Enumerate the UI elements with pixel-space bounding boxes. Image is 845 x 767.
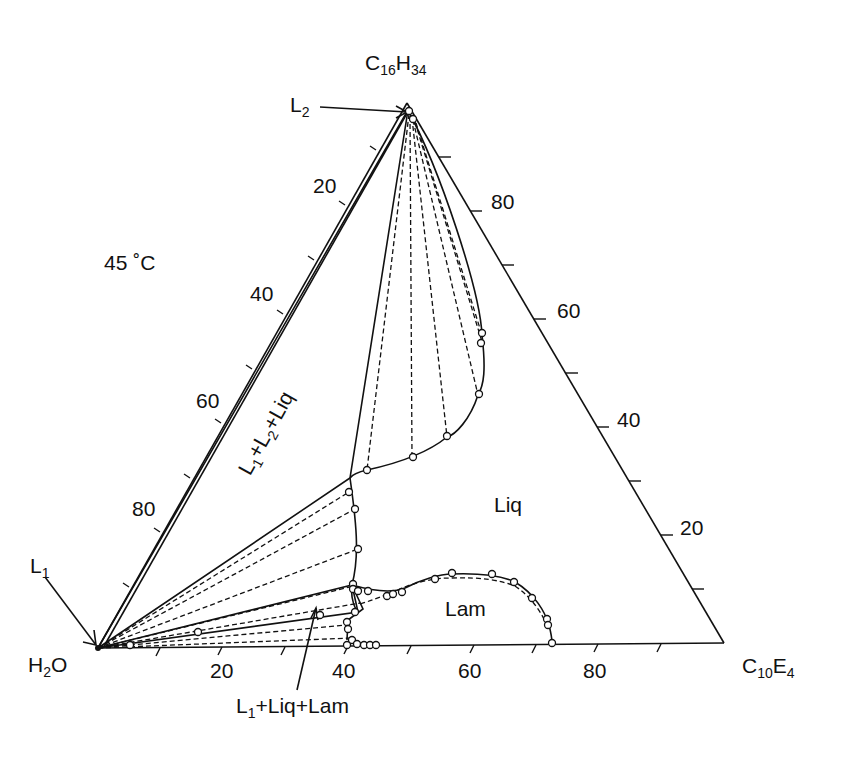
right-axis-label-80: 80 [491,191,514,212]
right-axis-label-60: 60 [557,300,580,321]
bottom-axis-label-20: 20 [210,660,233,681]
diagram-svg [0,0,845,767]
right-axis-ticks [439,157,704,589]
right-axis-label-20: 20 [680,517,703,538]
phase-label-l1: L1 [30,555,49,580]
h2o-vertex-dot [95,645,101,651]
left-axis-ticks [123,146,376,587]
right-axis-label-40: 40 [617,409,640,430]
vertex-label-surfactant: C10E4 [742,655,795,680]
vertex-label-oil: C16H34 [365,52,427,77]
left-axis-label-40: 40 [250,283,273,304]
l2-arrow [320,107,407,112]
region-label-lam: Lam [445,598,486,619]
phase-label-l2: L2 [290,94,309,119]
bottom-axis-label-40: 40 [332,660,355,681]
left-edge-inner [103,108,410,648]
right-edge [407,103,724,643]
region-label-l1-liq-lam: L1+Liq+Lam [236,695,349,720]
left-axis-label-20: 20 [313,175,336,196]
l1-arrow [45,577,96,645]
vertex-label-water: H2O [28,654,67,679]
temperature-label: 45 ˚C [104,252,155,273]
left-axis-label-60: 60 [196,390,219,411]
bottom-axis-label-60: 60 [458,660,481,681]
left-axis-label-80: 80 [132,498,155,519]
bottom-axis-label-80: 80 [583,660,606,681]
data-points [127,108,556,649]
liq-oil-boundary [350,110,484,478]
region-label-liq: Liq [494,494,522,515]
ternary-phase-diagram: C16H34 H2O C10E4 L2 L1 45 ˚C 20 40 60 80… [0,0,845,767]
three-phase-triangle [98,110,408,648]
